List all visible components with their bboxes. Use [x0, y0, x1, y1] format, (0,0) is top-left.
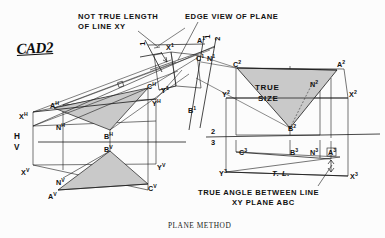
drawing-canvas: CAD2 NOT TRUE LENGTH OF LINE XY EDGE VIE…	[0, 0, 385, 238]
point-label-yv: YV	[157, 163, 165, 172]
point-label-ch: CH	[147, 82, 156, 91]
fold-label-1-left: 1	[139, 42, 146, 46]
point-label-bh: BH	[104, 132, 113, 141]
point-label-y2: Y2	[222, 90, 230, 99]
fold-line-23	[206, 134, 380, 137]
h-view-triangle-abc	[54, 88, 148, 130]
point-label-b1: B1	[188, 106, 196, 115]
figure-caption: PLANE METHOD	[168, 222, 231, 229]
point-label-n3: N3	[310, 148, 318, 157]
annotation-edge-view-of-plane: EDGE VIEW OF PLANE	[185, 13, 278, 21]
point-label-xv: XV	[21, 168, 29, 177]
point-label-n2: N2	[310, 80, 318, 89]
point-label-nh: NH	[56, 123, 65, 132]
point-label-c3: C3	[239, 148, 247, 157]
point-label-nv: NV	[56, 178, 65, 187]
point-label-a3: A3	[328, 148, 336, 157]
point-label-yh: YH	[152, 99, 161, 108]
point-label-y3: Y3	[219, 169, 227, 178]
point-label-xh: XH	[19, 112, 28, 121]
fold-label-1-upper: 1	[204, 35, 211, 39]
annotation-true-length: T. L.	[272, 170, 290, 178]
annotation-true-angle-line2: XY PLANE ABC	[232, 199, 295, 207]
annotation-not-true-length-line1: NOT TRUE LENGTH	[78, 13, 158, 21]
point-label-b2: B2	[288, 124, 296, 133]
point-label-y1: Y1	[161, 86, 169, 95]
annotation-true-size-line1: TRUE	[255, 84, 280, 92]
point-label-a2: A2	[337, 60, 345, 69]
annotation-true-size-line2: SIZE	[258, 95, 279, 103]
point-label-x2: X2	[349, 90, 357, 99]
annotation-true-angle-line1: TRUE ANGLE BETWEEN LINE	[198, 189, 319, 197]
point-label-ah: AH	[50, 101, 59, 110]
point-label-av: AV	[48, 192, 57, 201]
point-label-n1: N1	[207, 54, 215, 63]
point-label-c2: C2	[233, 60, 241, 69]
point-label-a1: A1	[197, 36, 205, 45]
fold-label-v: V	[14, 144, 19, 152]
annotation-not-true-length-line2: OF LINE XY	[78, 23, 126, 31]
v-view-triangle-abc	[58, 151, 148, 190]
fold-label-2-upper: 2	[214, 37, 221, 41]
point-label-bv: BV	[104, 145, 113, 154]
geometry-linework	[0, 0, 385, 238]
fold-label-2: 2	[211, 128, 215, 135]
point-label-x1: X1	[166, 43, 174, 52]
fold-line-12	[189, 36, 216, 130]
point-label-c1: C1	[196, 54, 204, 63]
point-label-b3: B3	[290, 148, 298, 157]
cad2-logo: CAD2	[16, 40, 53, 57]
point-label-cv: CV	[148, 184, 157, 193]
point-label-x3: X3	[350, 172, 358, 181]
fold-label-h: H	[14, 133, 20, 141]
fold-label-3: 3	[211, 139, 215, 146]
